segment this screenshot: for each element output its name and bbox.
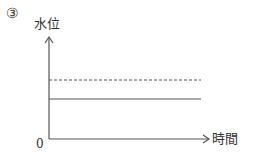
water-level-graph xyxy=(0,0,256,156)
